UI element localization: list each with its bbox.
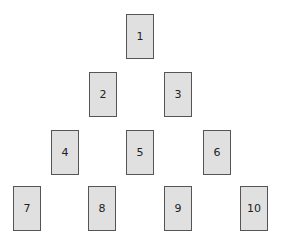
card-number: 1 xyxy=(137,30,144,43)
card-position-9: 9 xyxy=(164,186,192,231)
card-number: 5 xyxy=(137,146,144,159)
card-number: 9 xyxy=(175,202,182,215)
card-number: 6 xyxy=(214,146,221,159)
card-number: 2 xyxy=(100,88,107,101)
card-position-1: 1 xyxy=(126,14,154,59)
card-position-2: 2 xyxy=(89,72,117,117)
card-number: 4 xyxy=(62,146,69,159)
card-position-7: 7 xyxy=(13,186,41,231)
card-position-5: 5 xyxy=(126,130,154,175)
card-number: 8 xyxy=(99,202,106,215)
card-position-3: 3 xyxy=(164,72,192,117)
card-position-4: 4 xyxy=(51,130,79,175)
card-position-6: 6 xyxy=(203,130,231,175)
card-number: 3 xyxy=(175,88,182,101)
card-number: 7 xyxy=(24,202,31,215)
card-number: 10 xyxy=(247,202,261,215)
card-position-8: 8 xyxy=(88,186,116,231)
card-position-10: 10 xyxy=(240,186,268,231)
